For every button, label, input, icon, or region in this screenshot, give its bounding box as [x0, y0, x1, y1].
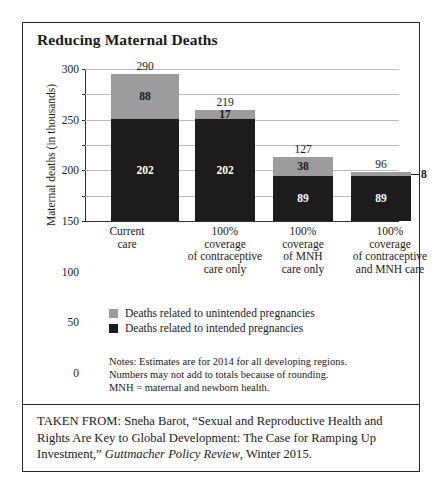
x-axis-label: Currentcare: [77, 225, 177, 250]
chart-legend: Deaths related to unintended pregnancies…: [109, 307, 315, 337]
bar-segment-intended[interactable]: 202: [111, 119, 179, 221]
y-tick-mark: [82, 170, 85, 171]
x-axis-label-line: 100%: [329, 225, 443, 238]
legend-label: Deaths related to intended pregnancies: [125, 322, 303, 334]
x-axis-label-line: coverage: [329, 238, 443, 251]
bar-segment-unintended[interactable]: [351, 172, 411, 176]
bar-group[interactable]: 20288: [111, 74, 179, 221]
y-tick-label: 100: [62, 266, 79, 278]
legend-swatch-gray: [109, 309, 118, 318]
bar-total-label: 219: [195, 96, 255, 108]
bar-value-intended: 89: [273, 192, 333, 204]
y-tick-label: 200: [62, 164, 79, 176]
bar-value-unintended: 8: [421, 168, 427, 180]
y-axis-title: Maternal deaths (in thousands): [45, 75, 57, 235]
bar-chart: Maternal deaths (in thousands) 050100150…: [23, 53, 419, 303]
x-axis-label-line: care: [77, 238, 177, 251]
legend-label: Deaths related to unintended pregnancies: [125, 307, 315, 319]
plot-area: 050100150200250300 290202882192021712789…: [85, 69, 399, 221]
y-tick-mark: [82, 120, 85, 121]
bar-value-intended: 202: [111, 164, 179, 176]
y-tick-mark: [82, 69, 85, 70]
bar-value-unintended: 17: [195, 108, 255, 120]
bar-segment-intended[interactable]: 89: [351, 176, 411, 221]
x-axis-label-line: and MNH care: [329, 263, 443, 276]
legend-item[interactable]: Deaths related to unintended pregnancies: [109, 307, 315, 319]
legend-swatch-dark: [109, 324, 118, 333]
y-tick-mark: [82, 94, 85, 95]
source-attribution: TAKEN FROM: Sneha Barot, “Sexual and Rep…: [37, 413, 405, 463]
bar-total-label: 290: [111, 60, 179, 72]
y-tick-label: 50: [68, 316, 80, 328]
bar-segment-unintended[interactable]: 88: [111, 74, 179, 119]
bar-group[interactable]: 8938: [273, 157, 333, 221]
bar-segment-unintended[interactable]: 17: [195, 110, 255, 119]
x-axis-label-line: Current: [77, 225, 177, 238]
figure-frame: Reducing Maternal Deaths Maternal deaths…: [22, 22, 420, 472]
x-axis-baseline: 0: [85, 221, 399, 222]
y-tick-mark: [82, 196, 85, 197]
x-axis-label: 100%coverageof contraceptiveand MNH care: [329, 225, 443, 275]
bar-value-unintended: 38: [273, 160, 333, 172]
figure-title: Reducing Maternal Deaths: [37, 31, 218, 49]
source-publication: Guttmacher Policy Review: [105, 447, 240, 461]
x-axis-label-line: of contraceptive: [329, 250, 443, 263]
bar-total-label: 127: [273, 143, 333, 155]
value-leader-line: [411, 174, 420, 175]
source-suffix: , Winter 2015.: [240, 447, 312, 461]
bar-total-label: 96: [351, 158, 411, 170]
bar-segment-intended[interactable]: 202: [195, 119, 255, 221]
legend-item[interactable]: Deaths related to intended pregnancies: [109, 322, 315, 334]
bar-value-intended: 202: [195, 164, 255, 176]
bar-value-intended: 89: [351, 192, 411, 204]
y-tick-label: 300: [62, 63, 79, 75]
source-divider: [23, 404, 419, 405]
note-line: Numbers may not add to totals because of…: [109, 368, 347, 381]
bar-segment-intended[interactable]: 89: [273, 176, 333, 221]
y-tick-label: 0: [73, 367, 79, 379]
y-tick-mark: [82, 145, 85, 146]
y-tick-label: 250: [62, 114, 79, 126]
chart-notes: Notes: Estimates are for 2014 for all de…: [109, 355, 347, 394]
bar-value-unintended: 88: [111, 90, 179, 102]
note-line: Notes: Estimates are for 2014 for all de…: [109, 355, 347, 368]
bar-group[interactable]: 20217: [195, 110, 255, 221]
bar-segment-unintended[interactable]: 38: [273, 157, 333, 176]
y-tick-mark: [82, 221, 85, 222]
note-line: MNH = maternal and newborn health.: [109, 381, 347, 394]
bar-group[interactable]: 89: [351, 172, 411, 221]
